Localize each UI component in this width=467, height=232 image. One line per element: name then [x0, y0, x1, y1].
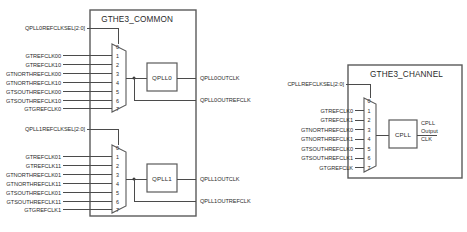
qpll1-block-label: QPLL1 — [152, 175, 172, 182]
cpll-mux-port-7: 7 — [368, 165, 371, 171]
qpll1-output-label-outrefclk: QPLL1OUTREFCLK — [200, 198, 251, 204]
qpll1-input-label-1: GTREFCLK01 — [25, 154, 61, 160]
qpll0-input-label-5: GTSOUTHREFCLK00 — [6, 89, 61, 95]
qpll0-mux-port-3: 3 — [116, 71, 119, 77]
cpll-mux-port-5: 5 — [368, 146, 371, 152]
qpll0-mux-port-5: 5 — [116, 89, 119, 95]
qpll1-mux-port-1: 1 — [116, 154, 119, 160]
cpll-input-label-6: GTSOUTHREFCLK1 — [301, 155, 353, 161]
qpll1-input-label-4: GTNORTHREFCLK11 — [6, 181, 61, 187]
cpll-mux-port-0: 0 — [368, 98, 371, 104]
qpll1-mux-port-7: 7 — [116, 207, 119, 213]
qpll0-mux-shape — [112, 44, 126, 112]
qpll1-mux-port-3: 3 — [116, 172, 119, 178]
cpll-mux-port-1: 1 — [368, 108, 371, 114]
qpll0-mux-port-6: 6 — [116, 98, 119, 104]
cpll-input-label-5: GTSOUTHREFCLK0 — [301, 146, 353, 152]
gthe3-channel-title: GTHE3_CHANNEL — [370, 70, 443, 79]
qpll0-mux-port-1: 1 — [116, 53, 119, 59]
cpll-input-label-7: GTGREFCLK — [319, 165, 353, 171]
cpll-input-label-2: GTREFCLK1 — [321, 117, 354, 123]
cpll-block-label: CPLL — [395, 131, 411, 138]
cpll-mux-port-2: 2 — [368, 117, 371, 123]
cpll-input-label-4: GTNORTHREFCLK1 — [301, 136, 353, 142]
cpll-output-label-line-1: CPLL — [421, 120, 435, 126]
qpll1-input-label-7: GTGREFCLK1 — [24, 207, 61, 213]
qpll1-input-label-3: GTNORTHREFCLK01 — [6, 172, 61, 178]
qpll1-refclksel-label: QPLL1REFCLKSEL[2:0] — [25, 126, 85, 132]
qpll1-input-label-5: GTSOUTHREFCLK01 — [6, 190, 61, 196]
qpll0-output-label-outrefclk: QPLL0OUTREFCLK — [200, 97, 251, 103]
cpll-input-label-3: GTNORTHREFCLK0 — [301, 127, 353, 133]
qpll0-mux-port-0: 0 — [116, 44, 119, 50]
qpll1-input-label-6: GTSOUTHREFCLK11 — [7, 199, 61, 205]
qpll1-output-label-outclk: QPLL1OUTCLK — [200, 176, 240, 182]
cpll-refclksel-label: CPLLREFCLKSEL[2:0] — [287, 81, 344, 87]
qpll1-mux-port-5: 5 — [116, 190, 119, 196]
cpll-mux-port-6: 6 — [368, 155, 371, 161]
gthe3-common-title: GTHE3_COMMON — [101, 15, 173, 24]
cpll-select-wire — [346, 84, 370, 98]
cpll-output-label-line-2: Output — [421, 128, 438, 134]
qpll1-input-label-2: GTREFCLK11 — [26, 163, 61, 169]
qpll0-block-label: QPLL0 — [152, 74, 172, 81]
qpll1-mux-shape — [112, 145, 126, 213]
diagram-canvas: GTHE3_COMMON QPLL0REFCLKSEL[2:0] 0 1 2 3… — [0, 0, 467, 232]
gthe3-clock-diagram: GTHE3_COMMON QPLL0REFCLKSEL[2:0] 0 1 2 3… — [0, 0, 467, 232]
qpll0-mux-port-7: 7 — [116, 106, 119, 112]
cpll-output-label-line-3: CLK — [421, 136, 432, 142]
qpll1-mux-port-6: 6 — [116, 199, 119, 205]
cpll-input-label-1: GTREFCLK0 — [321, 108, 354, 114]
qpll1-mux-port-2: 2 — [116, 163, 119, 169]
qpll1-select-wire — [87, 129, 118, 145]
qpll1-mux-port-0: 0 — [116, 145, 119, 151]
qpll0-input-label-6: GTSOUTHREFCLK10 — [6, 98, 61, 104]
gthe3-common-box — [90, 10, 196, 216]
qpll0-input-label-3: GTNORTHREFCLK00 — [6, 71, 61, 77]
cpll-mux-port-3: 3 — [368, 127, 371, 133]
qpll0-output-label-outclk: QPLL0OUTCLK — [200, 75, 240, 81]
qpll0-mux-port-4: 4 — [116, 80, 119, 86]
qpll0-input-label-4: GTNORTHREFCLK10 — [6, 80, 61, 86]
qpll0-mux-port-2: 2 — [116, 62, 119, 68]
qpll0-input-label-2: GTREFCLK10 — [25, 62, 61, 68]
qpll0-input-label-7: GTGREFCLK0 — [24, 106, 61, 112]
cpll-mux-port-4: 4 — [368, 136, 371, 142]
qpll0-select-wire — [87, 28, 118, 44]
qpll0-input-label-1: GTREFCLK00 — [25, 53, 61, 59]
qpll0-refclksel-label: QPLL0REFCLKSEL[2:0] — [25, 25, 85, 31]
qpll1-mux-port-4: 4 — [116, 181, 119, 187]
